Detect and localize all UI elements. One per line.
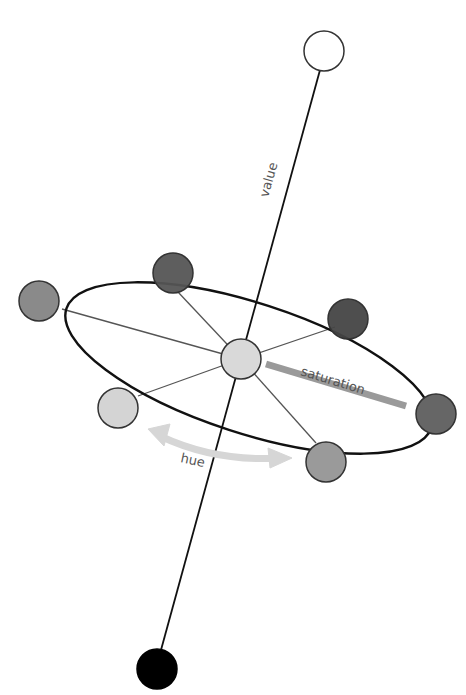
color-space-diagram: saturation value hue: [0, 0, 466, 695]
node-far-right: [416, 394, 456, 434]
hue-arrow: [148, 424, 292, 468]
saturation-label: saturation: [299, 364, 367, 398]
node-white: [304, 31, 344, 71]
node-lower-left-light: [98, 388, 138, 428]
color-nodes: [19, 31, 456, 689]
value-label: value: [256, 161, 280, 199]
diagram-svg: saturation value hue: [0, 0, 466, 695]
node-top-dark: [153, 253, 193, 293]
node-left-mid: [19, 281, 59, 321]
node-bottom-right: [306, 442, 346, 482]
node-right-dark: [328, 299, 368, 339]
node-center: [221, 339, 261, 379]
node-black: [137, 649, 177, 689]
